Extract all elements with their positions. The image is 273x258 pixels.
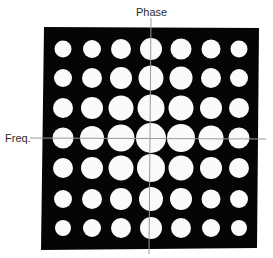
dot	[140, 217, 162, 239]
dot	[110, 188, 132, 210]
dot	[202, 219, 220, 237]
dot	[53, 98, 73, 118]
dot	[171, 218, 191, 238]
dot	[229, 158, 249, 178]
dot	[139, 187, 163, 211]
dot	[54, 190, 72, 208]
dot	[82, 68, 102, 88]
phase-frequency-dot-diagram: Phase Freq.	[0, 0, 273, 258]
dot	[109, 96, 134, 121]
dot	[53, 158, 73, 178]
dot	[83, 219, 101, 237]
dot	[110, 67, 132, 89]
dot	[231, 41, 248, 58]
dot	[202, 40, 221, 59]
dot	[229, 98, 249, 118]
dot	[81, 97, 103, 119]
dot	[170, 67, 193, 90]
dot	[170, 188, 192, 210]
dot	[171, 39, 192, 60]
frequency-axis-label: Freq.	[5, 132, 31, 144]
dot	[230, 69, 248, 87]
dot	[83, 40, 101, 58]
dot	[169, 96, 194, 121]
dot	[201, 68, 221, 88]
dot	[230, 190, 248, 208]
dot	[229, 128, 250, 149]
phase-axis-label: Phase	[136, 6, 167, 18]
dot	[167, 124, 195, 152]
dot	[111, 218, 131, 238]
dot	[137, 154, 165, 182]
dot	[169, 156, 194, 181]
dot	[231, 220, 247, 236]
dot	[54, 69, 72, 87]
dot	[81, 157, 103, 179]
dot	[202, 190, 221, 209]
dot	[138, 95, 165, 122]
dot	[199, 126, 224, 151]
dot	[55, 220, 71, 236]
dot	[109, 156, 134, 181]
dot	[82, 189, 102, 209]
dot	[200, 97, 222, 119]
dot	[111, 39, 131, 59]
dot	[55, 41, 72, 58]
diagram-canvas	[0, 0, 273, 258]
dot	[200, 157, 222, 179]
